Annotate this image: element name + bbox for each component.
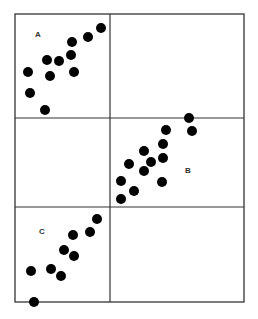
data-point — [161, 125, 171, 135]
data-point — [45, 71, 55, 81]
data-point — [40, 105, 50, 115]
data-point — [67, 37, 77, 47]
data-point — [187, 126, 197, 136]
data-point — [96, 23, 106, 33]
data-point — [146, 157, 156, 167]
data-point — [83, 32, 93, 42]
data-point — [59, 245, 69, 255]
panel-c-points — [26, 214, 102, 307]
data-point — [157, 177, 167, 187]
data-point — [158, 153, 168, 163]
data-point — [42, 55, 52, 65]
data-point — [56, 271, 66, 281]
data-point — [25, 88, 35, 98]
scatter-matrix-diagram: ABC — [0, 0, 258, 319]
data-point — [116, 194, 126, 204]
data-point — [69, 67, 79, 77]
data-point — [139, 166, 149, 176]
data-point — [129, 186, 139, 196]
data-point — [184, 113, 194, 123]
data-point — [66, 50, 76, 60]
data-point — [139, 146, 149, 156]
panel-label-a: A — [35, 30, 41, 39]
panel-label-c: C — [39, 227, 45, 236]
data-point — [116, 176, 126, 186]
data-point — [85, 227, 95, 237]
data-point — [68, 230, 78, 240]
data-point — [124, 159, 134, 169]
data-point — [26, 266, 36, 276]
data-point — [29, 297, 39, 307]
data-point — [69, 251, 79, 261]
data-point — [46, 264, 56, 274]
panel-b-points — [116, 113, 197, 204]
data-point — [23, 67, 33, 77]
panel-label-b: B — [185, 166, 191, 175]
data-point — [54, 56, 64, 66]
data-point — [158, 139, 168, 149]
data-point — [92, 214, 102, 224]
